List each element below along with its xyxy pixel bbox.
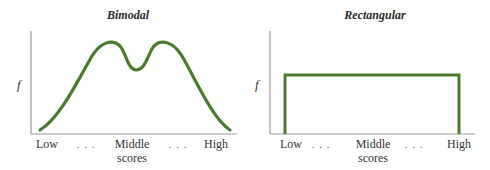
rectangular-chart: Rectangular f Low . . . Middle . . . Hig… [255,8,475,165]
rectangular-tick-high: High [447,137,471,151]
rectangular-tick-low: Low [280,137,302,151]
bimodal-title: Bimodal [106,8,150,22]
rectangular-tick-middle: Middle [356,137,391,151]
rectangular-tick-dots-1: . . . [312,138,331,150]
bimodal-tick-dots-1: . . . [77,138,96,150]
rectangular-tick-dots-2: . . . [405,138,424,150]
rectangular-title: Rectangular [343,8,406,22]
bimodal-y-label: f [17,77,23,92]
bimodal-curve [40,42,230,130]
rectangular-curve [285,75,459,134]
figure: Bimodal f Low . . . Middle . . . High sc… [0,0,490,170]
rectangular-x-label: scores [358,151,388,165]
rectangular-y-label: f [255,77,261,92]
bimodal-tick-middle: Middle [115,137,150,151]
bimodal-tick-dots-2: . . . [169,138,188,150]
bimodal-chart: Bimodal f Low . . . Middle . . . High sc… [17,8,237,165]
bimodal-x-label: scores [117,151,147,165]
bimodal-tick-high: High [204,137,228,151]
bimodal-tick-low: Low [36,137,58,151]
